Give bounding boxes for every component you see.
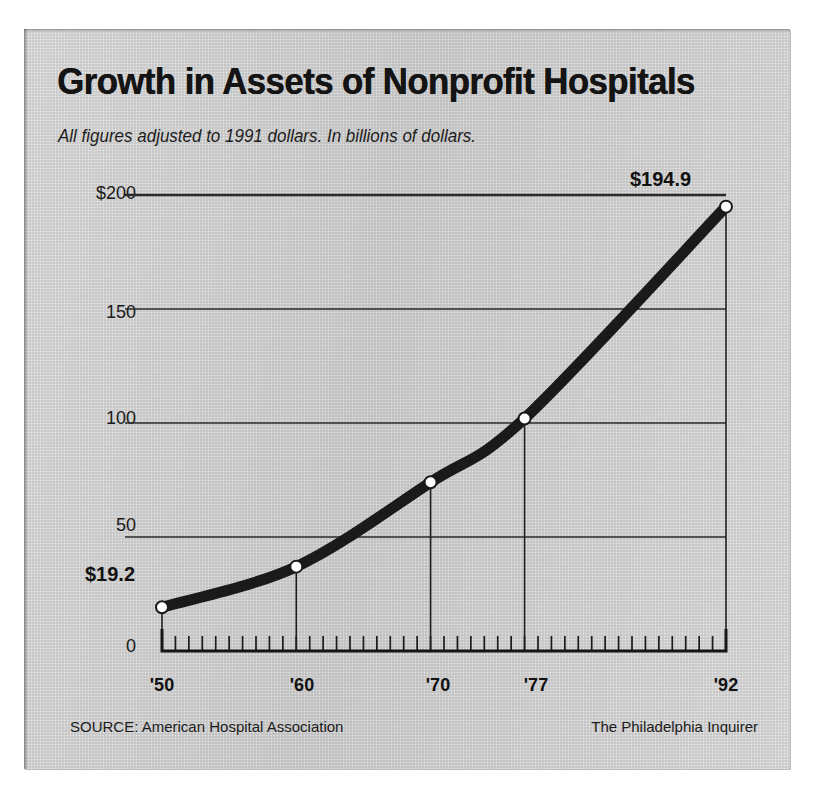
y-axis-label-0: 0 xyxy=(66,636,136,657)
x-axis-label-77: '77 xyxy=(506,675,566,696)
y-axis-label-200: $200 xyxy=(66,183,136,204)
y-axis-label-100: 100 xyxy=(66,408,136,429)
publisher-credit: The Philadelphia Inquirer xyxy=(591,718,758,735)
page-title: Growth in Assets of Nonprofit Hospitals xyxy=(57,61,695,103)
x-axis-label-50: '50 xyxy=(132,675,192,696)
chart-page: Growth in Assets of Nonprofit Hospitals … xyxy=(0,0,816,798)
y-axis-label-50: 50 xyxy=(66,515,136,536)
end-value-annotation: $194.9 xyxy=(630,168,691,191)
x-axis-label-92: '92 xyxy=(696,675,756,696)
x-axis-label-70: '70 xyxy=(408,675,468,696)
start-value-annotation: $19.2 xyxy=(85,563,135,586)
y-axis-label-150: 150 xyxy=(66,302,136,323)
source-note: SOURCE: American Hospital Association xyxy=(70,718,343,735)
scan-edge-top xyxy=(24,29,790,32)
page-subtitle: All figures adjusted to 1991 dollars. In… xyxy=(58,126,476,147)
scan-edge-left xyxy=(24,29,28,769)
x-axis-label-60: '60 xyxy=(272,675,332,696)
